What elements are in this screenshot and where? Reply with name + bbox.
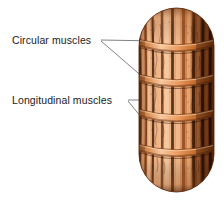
worm-body (138, 8, 215, 194)
label-longitudinal-muscles: Longitudinal muscles (12, 95, 112, 106)
label-circular-muscles: Circular muscles (12, 35, 91, 46)
figure-canvas: Circular muscles Longitudinal muscles (0, 0, 224, 205)
